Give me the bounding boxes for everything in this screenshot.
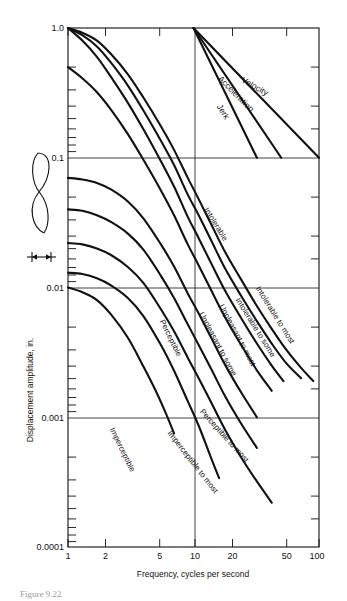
vibration-perception-figure: 1.0 0.1 0.01 0.001 0.0001 1 2 5 10 20 50… xyxy=(0,0,347,601)
x-tick-label-6: 50 xyxy=(282,551,292,561)
chart-svg: 1.0 0.1 0.01 0.001 0.0001 1 2 5 10 20 50… xyxy=(0,0,347,601)
x-tick-label-5: 20 xyxy=(227,551,237,561)
x-axis-tick-labels: 1 2 5 10 20 50 100 xyxy=(65,551,324,561)
y-axis-title: Displacement amplitude, in. xyxy=(25,338,35,442)
x-tick-label-7: 100 xyxy=(309,551,324,561)
y-tick-label-2: 0.1 xyxy=(51,153,64,163)
y-tick-label-1: 1.0 xyxy=(51,23,64,33)
figure-background xyxy=(0,0,347,601)
x-tick-label-4: 10 xyxy=(190,551,200,561)
y-tick-label-5: 0.0001 xyxy=(36,542,64,552)
y-tick-label-4: 0.001 xyxy=(41,413,64,423)
x-axis-title: Frequency, cycles per second xyxy=(137,569,250,579)
x-tick-label-1: 1 xyxy=(65,551,70,561)
y-tick-label-3: 0.01 xyxy=(46,283,64,293)
x-tick-label-2: 2 xyxy=(103,551,108,561)
x-tick-label-3: 5 xyxy=(157,551,162,561)
figure-caption: Figure 9.22 xyxy=(20,589,62,599)
